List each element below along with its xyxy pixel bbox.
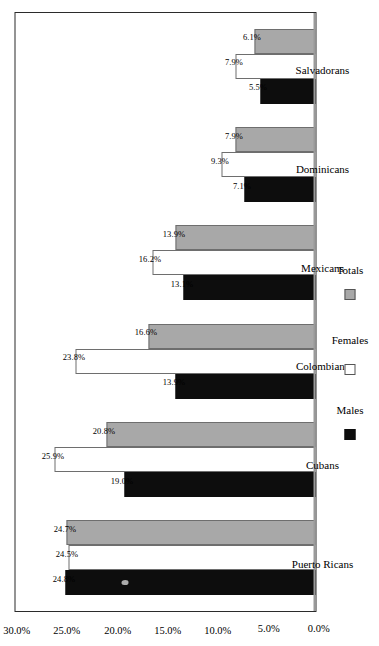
bar-value-label: 7.9% [224,131,242,140]
bar-slot: 6.1% [15,29,315,54]
bar-group: 19.0%25.9%20.8% [15,410,315,508]
legend-item-totals[interactable]: Totals [344,258,355,301]
bar-value-label: 24.8% [52,574,74,583]
bar-males[interactable]: 13.1% [183,275,315,300]
value-axis: 30.0%25.0%20.0%15.0%10.0%5.0%0.0% [14,614,316,646]
value-axis-tick: 25.0% [55,618,73,645]
bar-group: 13.1%16.2%13.9% [15,214,315,312]
bar-totals[interactable]: 24.7% [66,520,315,545]
bar-females[interactable]: 16.2% [152,250,315,275]
category-tick-label: Colombians [295,361,348,372]
bar-males[interactable]: 13.9% [175,374,315,399]
value-axis-tick: 15.0% [156,618,174,645]
bar-slot: 7.9% [15,54,315,79]
category-tick: Puerto Ricans [318,509,376,608]
bar-value-label: 13.9% [162,229,184,238]
legend-item-females[interactable]: Females [344,322,355,375]
bar-group: 5.5%7.9%6.1% [15,17,315,115]
bar-value-label: 7.9% [224,58,242,67]
bar-slot: 5.5% [15,79,315,104]
bar-females[interactable]: 23.8% [75,349,315,374]
bar-totals[interactable]: 7.9% [235,127,315,152]
bar-females[interactable]: 25.9% [54,447,315,472]
bar-chart: 30.0%25.0%20.0%15.0%10.0%5.0%0.0% 24.8%2… [0,0,379,646]
value-axis-tick-label: 0.0% [307,624,329,635]
bar-slot: 7.1% [15,177,315,202]
category-tick-label: Puerto Ricans [291,559,352,570]
bar-slot: 24.5% [15,545,315,570]
bar-slot: 25.9% [15,447,315,472]
legend-swatch-females-icon [344,364,355,375]
value-axis-tick: 20.0% [106,618,124,645]
bar-slot: 24.8% [15,570,315,595]
value-axis-tick: 10.0% [206,618,224,645]
bar-value-label: 25.9% [41,451,63,460]
value-axis-tick-label: 15.0% [154,626,181,637]
bar-slot: 13.1% [15,275,315,300]
rotated-figure-frame: 30.0%25.0%20.0%15.0%10.0%5.0%0.0% 24.8%2… [0,0,379,646]
bar-males[interactable]: 24.8% [65,570,315,595]
bar-males[interactable]: 5.5% [260,79,315,104]
plot-area: 24.8%24.5%24.7%19.0%25.9%20.8%13.9%23.8%… [14,12,316,612]
bar-value-label: 5.5% [249,83,267,92]
value-axis-tick: 0.0% [307,618,325,640]
bar-groups: 24.8%24.5%24.7%19.0%25.9%20.8%13.9%23.8%… [15,13,315,611]
category-tick: Dominicans [318,115,376,214]
bar-slot: 16.6% [15,324,315,349]
category-tick: Salvadorans [318,16,376,115]
chart-legend: MalesFemalesTotals [344,258,355,440]
legend-swatch-males-icon [344,429,355,440]
bar-value-label: 9.3% [210,156,228,165]
legend-item-males[interactable]: Males [344,397,355,440]
bar-value-label: 24.7% [53,524,75,533]
bar-value-label: 23.8% [62,353,84,362]
bar-slot: 13.9% [15,374,315,399]
bar-slot: 13.9% [15,225,315,250]
legend-label: Totals [336,266,363,277]
bar-totals[interactable]: 16.6% [148,324,315,349]
value-axis-tick-label: 20.0% [103,626,130,637]
bar-slot: 16.2% [15,250,315,275]
bar-slot: 23.8% [15,349,315,374]
value-axis-tick-label: 5.0% [257,624,279,635]
legend-label: Males [336,405,363,416]
bar-value-label: 16.2% [139,254,161,263]
bar-value-label: 6.1% [243,33,261,42]
bar-males[interactable]: 19.0% [124,472,315,497]
legend-swatch-totals-icon [344,289,355,300]
value-axis-tick-label: 30.0% [3,626,30,637]
bar-slot: 19.0% [15,472,315,497]
bar-females[interactable]: 24.5% [68,545,315,570]
bar-slot: 7.9% [15,127,315,152]
bar-group: 24.8%24.5%24.7% [15,509,315,607]
value-axis-tick: 30.0% [5,618,23,645]
bar-value-label: 16.6% [135,328,157,337]
bar-group: 7.1%9.3%7.9% [15,115,315,213]
bar-slot: 24.7% [15,520,315,545]
bar-value-label: 20.8% [92,426,114,435]
bar-slot: 9.3% [15,152,315,177]
category-tick-label: Salvadorans [295,65,349,76]
bar-value-label: 13.1% [170,279,192,288]
bar-value-label: 13.9% [162,378,184,387]
bar-value-label: 19.0% [111,476,133,485]
bar-totals[interactable]: 20.8% [106,422,315,447]
value-axis-tick: 5.0% [257,618,275,640]
legend-label: Females [331,335,368,346]
print-artifact-speck [121,580,128,585]
bar-value-label: 24.5% [55,549,77,558]
bar-group: 13.9%23.8%16.6% [15,312,315,410]
bar-totals[interactable]: 6.1% [254,29,315,54]
category-tick-label: Cubans [306,460,339,471]
category-axis-line [313,13,315,611]
value-axis-tick-label: 25.0% [53,626,80,637]
category-tick-label: Dominicans [295,164,348,175]
bar-slot: 20.8% [15,422,315,447]
bar-males[interactable]: 7.1% [244,177,315,202]
value-axis-tick-label: 10.0% [204,626,231,637]
bar-totals[interactable]: 13.9% [175,225,315,250]
bar-value-label: 7.1% [232,181,250,190]
